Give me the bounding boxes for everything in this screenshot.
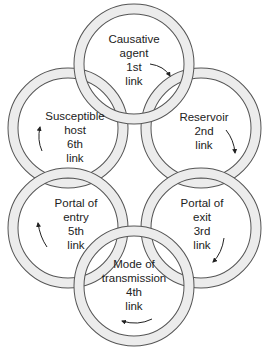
link-2-label: Reservoir 2nd link xyxy=(154,110,254,152)
link-2-name-line-1: Reservoir xyxy=(154,110,254,124)
link-4-suffix: link xyxy=(84,299,184,313)
link-5-name-line-1: Portal of xyxy=(26,196,126,210)
link-1-suffix: link xyxy=(84,74,184,88)
link-6-suffix: link xyxy=(25,151,125,165)
link-2-order: 2nd xyxy=(154,124,254,138)
link-3-suffix: link xyxy=(152,238,252,252)
link-6-name-line-2: host xyxy=(25,123,125,137)
link-5-name-line-2: entry xyxy=(26,210,126,224)
link-4-name-line-2: transmission xyxy=(84,271,184,285)
link-6-label: Susceptible host 6th link xyxy=(25,109,125,165)
link-2-suffix: link xyxy=(154,138,254,152)
link-1-name-line-1: Causative xyxy=(84,32,184,46)
link-3-order: 3rd xyxy=(152,224,252,238)
link-5-label: Portal of entry 5th link xyxy=(26,196,126,252)
link-4-label: Mode of transmission 4th link xyxy=(84,257,184,313)
link-4-name-line-1: Mode of xyxy=(84,257,184,271)
link-6-order: 6th xyxy=(25,137,125,151)
link-3-label: Portal of exit 3rd link xyxy=(152,196,252,252)
link-5-order: 5th xyxy=(26,224,126,238)
link-1-order: 1st xyxy=(84,60,184,74)
link-4-order: 4th xyxy=(84,285,184,299)
link-1-name-line-2: agent xyxy=(84,46,184,60)
link-5-suffix: link xyxy=(26,238,126,252)
link-1-label: Causative agent 1st link xyxy=(84,32,184,88)
link-3-name-line-2: exit xyxy=(152,210,252,224)
link-3-name-line-1: Portal of xyxy=(152,196,252,210)
arrow-icon-4 xyxy=(122,319,152,323)
link-6-name-line-1: Susceptible xyxy=(25,109,125,123)
